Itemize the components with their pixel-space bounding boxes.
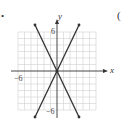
x-tick-left: −6 [14,75,23,83]
x-axis-label: x [110,66,114,75]
x-axis-arrow-icon [103,69,108,73]
y-axis-label: y [58,12,62,21]
origin-point [55,69,58,72]
y-tick-bottom: −6 [46,108,55,116]
y-tick-top: 6 [51,28,55,36]
